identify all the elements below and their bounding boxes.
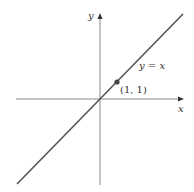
x-axis-arrow-icon xyxy=(178,97,184,102)
line-label: y = x xyxy=(138,60,165,71)
graph-canvas: y x y = x (1, 1) xyxy=(0,0,194,192)
y-axis-arrow-icon xyxy=(98,13,103,19)
point-1-1 xyxy=(114,79,119,84)
y-axis-label: y xyxy=(87,10,94,21)
x-axis-label: x xyxy=(178,103,184,114)
point-label: (1, 1) xyxy=(120,84,147,95)
